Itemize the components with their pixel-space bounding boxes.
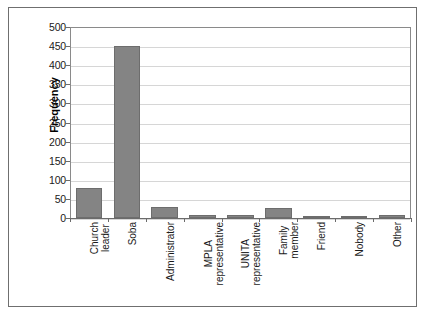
y-tick-label: 500: [32, 21, 66, 33]
x-label-slot: Administrator: [146, 222, 184, 310]
bar-series: [70, 27, 411, 218]
bar-slot: [108, 27, 146, 218]
y-tick-label: 150: [32, 155, 66, 167]
x-axis-line: [70, 218, 411, 219]
x-axis-category-labels: ChurchleaderSobaAdministratorMPLAreprese…: [70, 222, 411, 310]
bar-slot: [297, 27, 335, 218]
bar-slot: [146, 27, 184, 218]
x-tick-mark: [411, 218, 412, 222]
x-category-label: Administrator: [165, 222, 176, 281]
bar[interactable]: [265, 208, 292, 218]
y-tick-label: 300: [32, 97, 66, 109]
y-tick-mark: [65, 180, 70, 181]
y-tick-mark: [65, 123, 70, 124]
bar-slot: [335, 27, 373, 218]
x-label-slot: MPLArepresentative: [184, 222, 222, 310]
y-tick-mark: [65, 199, 70, 200]
y-tick-mark: [65, 65, 70, 66]
y-tick-label: 350: [32, 78, 66, 90]
x-label-slot: Nobody: [335, 222, 373, 310]
x-label-slot: Other: [373, 222, 411, 310]
bar-slot: [373, 27, 411, 218]
y-tick-label: 100: [32, 174, 66, 186]
x-category-label: Soba: [127, 222, 138, 245]
y-tick-mark: [65, 161, 70, 162]
bar[interactable]: [151, 207, 178, 218]
bar-slot: [259, 27, 297, 218]
x-category-label: Nobody: [354, 222, 365, 256]
y-tick-label: 50: [32, 193, 66, 205]
y-axis-tick-labels: 050100150200250300350400450500: [30, 0, 66, 318]
y-tick-label: 200: [32, 136, 66, 148]
x-label-slot: Soba: [108, 222, 146, 310]
bar[interactable]: [114, 46, 141, 218]
y-tick-mark: [65, 142, 70, 143]
y-tick-label: 0: [32, 212, 66, 224]
gridline: [71, 219, 410, 220]
x-label-slot: Familymember: [259, 222, 297, 310]
y-tick-label: 450: [32, 40, 66, 52]
y-tick-mark: [65, 103, 70, 104]
bar-slot: [222, 27, 260, 218]
x-category-label: Other: [392, 222, 403, 247]
y-tick-mark: [65, 84, 70, 85]
y-tick-mark: [65, 27, 70, 28]
bar-slot: [70, 27, 108, 218]
bar-slot: [184, 27, 222, 218]
x-label-slot: Churchleader: [70, 222, 108, 310]
x-label-slot: Friend: [297, 222, 335, 310]
y-tick-mark: [65, 46, 70, 47]
figure-container: Frequency 050100150200250300350400450500…: [0, 0, 426, 318]
y-tick-label: 250: [32, 117, 66, 129]
x-category-label: Friend: [316, 222, 327, 250]
x-label-slot: UNITArepresentative: [222, 222, 260, 310]
bar[interactable]: [76, 188, 103, 218]
y-tick-mark: [65, 218, 70, 219]
y-tick-label: 400: [32, 59, 66, 71]
